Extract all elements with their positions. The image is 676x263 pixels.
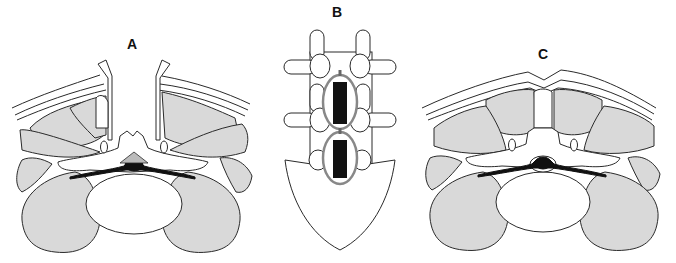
axial-section-a-drawing (0, 0, 260, 263)
panel-c: C (416, 0, 676, 263)
panel-b: B (270, 0, 410, 263)
axial-section-c-drawing (416, 0, 676, 263)
posterior-spine-b-drawing (270, 0, 410, 263)
panel-a: A (0, 0, 260, 263)
